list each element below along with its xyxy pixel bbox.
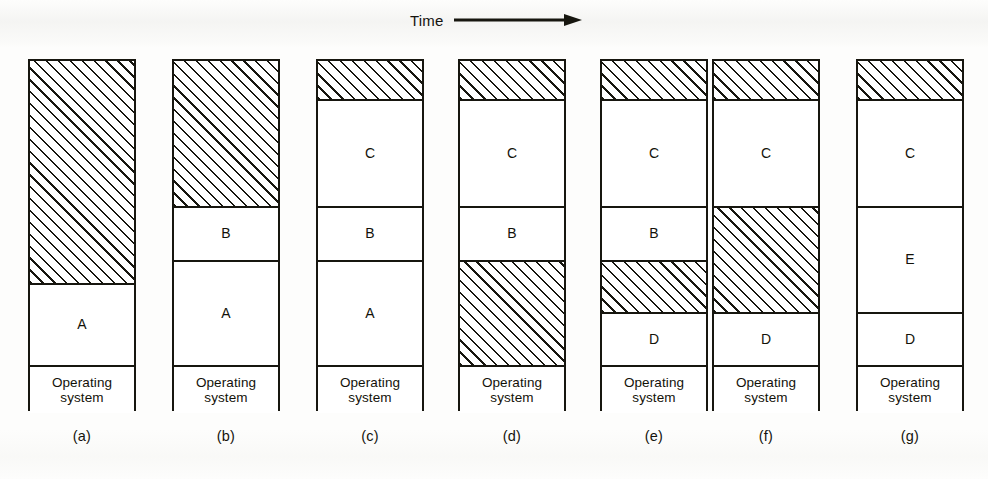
memory-map-box: CBOperatingsystem [458,59,566,411]
process-label: A [221,306,230,322]
process-segment-C: C [858,99,962,206]
free-memory-segment [714,61,818,99]
column-caption: (b) [172,428,280,444]
os-segment-label: Operatingsystem [482,375,542,405]
os-segment-label: Operatingsystem [196,375,256,405]
os-segment: Operatingsystem [174,365,278,413]
process-label: E [905,252,914,268]
process-label: D [905,332,915,348]
os-label-line-2: system [744,390,787,405]
os-label-line-2: system [888,390,931,405]
process-segment-B: B [460,206,564,260]
free-memory-segment [714,206,818,312]
column-caption: (a) [28,428,136,444]
free-memory-segment [460,260,564,365]
os-segment: Operatingsystem [318,365,422,413]
os-segment: Operatingsystem [460,365,564,413]
free-memory-segment [858,61,962,99]
process-segment-C: C [714,99,818,206]
process-segment-B: B [602,206,706,260]
process-segment-A: A [318,260,422,365]
process-label: A [77,317,86,333]
os-label-line-1: Operating [736,375,796,390]
process-segment-D: D [858,312,962,365]
process-label: A [365,306,374,322]
process-label: C [365,146,375,162]
process-label: B [507,226,516,242]
os-label-line-2: system [348,390,391,405]
memory-map-box: CBAOperatingsystem [316,59,424,411]
os-label-line-2: system [60,390,103,405]
process-segment-C: C [602,99,706,206]
column-caption: (d) [458,428,566,444]
process-segment-C: C [318,99,422,206]
memory-map-box: BAOperatingsystem [172,59,280,411]
process-label: C [507,146,517,162]
process-label: D [761,332,771,348]
free-memory-segment [30,61,134,283]
os-segment-label: Operatingsystem [736,375,796,405]
process-segment-B: B [318,206,422,260]
os-label-line-1: Operating [196,375,256,390]
os-segment-label: Operatingsystem [52,375,112,405]
process-segment-A: A [30,283,134,365]
process-segment-D: D [602,312,706,365]
process-segment-E: E [858,206,962,312]
free-memory-segment [602,260,706,312]
os-label-line-1: Operating [624,375,684,390]
process-segment-D: D [714,312,818,365]
free-memory-segment [318,61,422,99]
memory-map-box: AOperatingsystem [28,59,136,411]
os-label-line-1: Operating [482,375,542,390]
free-memory-segment [602,61,706,99]
process-label: D [649,332,659,348]
column-caption: (e) [600,428,708,444]
memory-map-box: CDOperatingsystem [712,59,820,411]
os-label-line-1: Operating [52,375,112,390]
memory-map-box: CBDOperatingsystem [600,59,708,411]
free-memory-segment [174,61,278,206]
process-segment-A: A [174,260,278,365]
process-label: C [649,146,659,162]
os-segment: Operatingsystem [602,365,706,413]
column-caption: (f) [712,428,820,444]
memory-timeline-diagram: AOperatingsystem(a)BAOperatingsystem(b)C… [0,0,988,479]
os-label-line-2: system [490,390,533,405]
os-label-line-2: system [632,390,675,405]
process-segment-B: B [174,206,278,260]
process-label: B [365,226,374,242]
os-segment: Operatingsystem [714,365,818,413]
process-label: B [649,226,658,242]
process-label: C [905,146,915,162]
process-label: C [761,146,771,162]
os-segment-label: Operatingsystem [340,375,400,405]
os-label-line-1: Operating [880,375,940,390]
memory-map-box: CEDOperatingsystem [856,59,964,411]
os-label-line-1: Operating [340,375,400,390]
column-caption: (c) [316,428,424,444]
os-segment-label: Operatingsystem [624,375,684,405]
column-caption: (g) [856,428,964,444]
os-label-line-2: system [204,390,247,405]
os-segment: Operatingsystem [858,365,962,413]
os-segment: Operatingsystem [30,365,134,413]
process-label: B [221,226,230,242]
os-segment-label: Operatingsystem [880,375,940,405]
process-segment-C: C [460,99,564,206]
free-memory-segment [460,61,564,99]
